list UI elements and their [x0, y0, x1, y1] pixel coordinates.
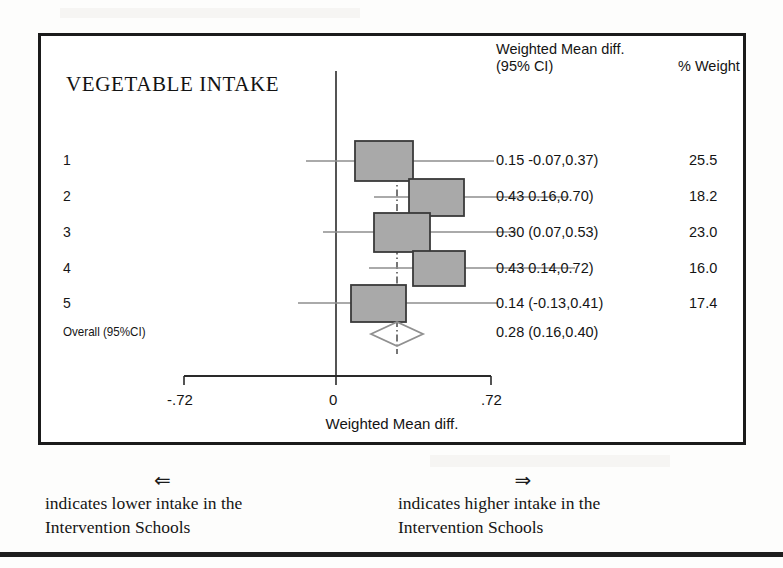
x-axis-title: Weighted Mean diff.: [41, 415, 743, 432]
forest-row-label-4: 4: [63, 260, 71, 276]
x-tick-label-max: .72: [481, 391, 502, 408]
forest-row-effect-5: 0.14 (-0.13,0.41): [496, 295, 603, 311]
forest-row-weight-2: 18.2: [689, 188, 717, 204]
x-tick-label-min: -.72: [167, 391, 193, 408]
forest-row-label-2: 2: [63, 188, 71, 204]
forest-row-label-1: 1: [63, 152, 71, 168]
forest-row-weight-3: 23.0: [689, 224, 717, 240]
forest-row-label-3: 3: [63, 224, 71, 240]
forest-row-marker-3: [323, 213, 516, 252]
caption-lower-intake: ⇐ indicates lower intake in the Interven…: [45, 470, 345, 539]
forest-plot-graphic: [41, 36, 749, 448]
forest-row-effect-1: 0.15 -0.07,0.37): [496, 152, 598, 168]
forest-row-label-5: 5: [63, 295, 71, 311]
scan-artifact: [60, 8, 360, 18]
forest-row-effect-4: 0.43 0.14,0.72): [496, 260, 594, 276]
overall-row-label: Overall (95%CI): [63, 324, 146, 339]
forest-row-effect-2: 0.43 0.16,0.70): [496, 188, 594, 204]
left-arrow-icon: ⇐: [45, 470, 280, 490]
page-bottom-rule: [0, 552, 783, 557]
caption-higher-intake: ⇒ indicates higher intake in the Interve…: [398, 470, 718, 539]
x-tick-label-zero: 0: [329, 391, 337, 408]
forest-row-marker-1: [306, 141, 494, 181]
forest-plot-frame: Weighted Mean diff.(95% CI) % Weight VEG…: [38, 33, 746, 445]
forest-row-marker-5: [298, 285, 498, 322]
forest-row-effect-3: 0.30 (0.07,0.53): [496, 224, 598, 240]
forest-row-weight-1: 25.5: [689, 152, 717, 168]
right-arrow-icon: ⇒: [398, 470, 648, 490]
caption-lower-line-2: Intervention Schools: [45, 515, 345, 539]
forest-row-weight-5: 17.4: [689, 295, 717, 311]
caption-higher-line-2: Intervention Schools: [398, 515, 718, 539]
forest-row-weight-4: 16.0: [689, 260, 717, 276]
scan-artifact: [430, 455, 670, 467]
caption-higher-line-1: indicates higher intake in the: [398, 491, 718, 515]
overall-row-effect: 0.28 (0.16,0.40): [496, 324, 598, 340]
caption-lower-line-1: indicates lower intake in the: [45, 491, 345, 515]
